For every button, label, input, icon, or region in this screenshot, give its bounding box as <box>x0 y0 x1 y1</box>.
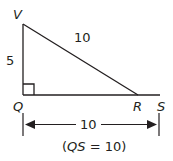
vertex-label-v: V <box>13 7 23 22</box>
side-label-vr: 10 <box>74 30 91 45</box>
caption-var: QS <box>67 139 85 154</box>
vertex-label-s: S <box>157 99 165 114</box>
triangle-vqr <box>23 24 160 95</box>
caption: (QS = 10) <box>62 139 126 154</box>
vertex-label-r: R <box>133 99 142 114</box>
right-angle-marker <box>23 84 34 95</box>
caption-rest: = 10) <box>86 139 127 154</box>
side-label-vq: 5 <box>6 53 14 68</box>
arrowhead-left-icon <box>25 120 35 129</box>
triangle-diagram: V Q R S 5 10 10 (QS = 10) <box>0 0 173 161</box>
dimension-label: 10 <box>80 117 97 132</box>
vertex-label-q: Q <box>13 99 23 114</box>
arrowhead-right-icon <box>147 120 157 129</box>
